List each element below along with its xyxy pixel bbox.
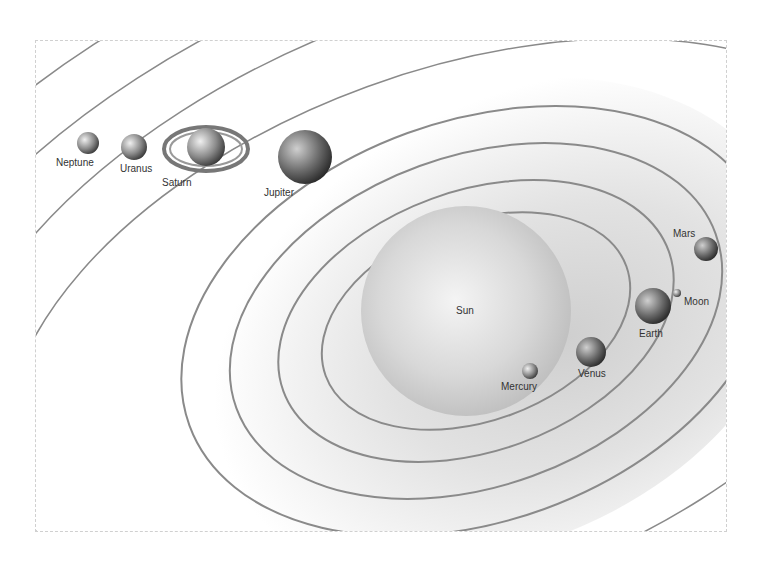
earth-icon xyxy=(635,288,671,324)
venus-icon xyxy=(576,337,606,367)
label-mercury: Mercury xyxy=(501,381,537,392)
label-earth: Earth xyxy=(639,328,663,339)
label-mars: Mars xyxy=(673,228,695,239)
label-jupiter: Jupiter xyxy=(264,187,294,198)
uranus-icon xyxy=(121,134,147,160)
mars-icon xyxy=(694,237,718,261)
label-saturn: Saturn xyxy=(162,177,191,188)
jupiter-icon xyxy=(278,130,332,184)
orbit-illustration xyxy=(36,41,726,531)
saturn-icon xyxy=(187,128,225,166)
label-neptune: Neptune xyxy=(56,157,94,168)
mercury-icon xyxy=(522,363,538,379)
label-uranus: Uranus xyxy=(120,163,152,174)
label-sun: Sun xyxy=(456,305,474,316)
label-moon: Moon xyxy=(684,296,709,307)
neptune-icon xyxy=(77,132,99,154)
solar-system-diagram: Neptune Uranus Saturn Jupiter Sun Mars M… xyxy=(35,40,727,532)
label-venus: Venus xyxy=(578,368,606,379)
moon-icon xyxy=(673,289,681,297)
